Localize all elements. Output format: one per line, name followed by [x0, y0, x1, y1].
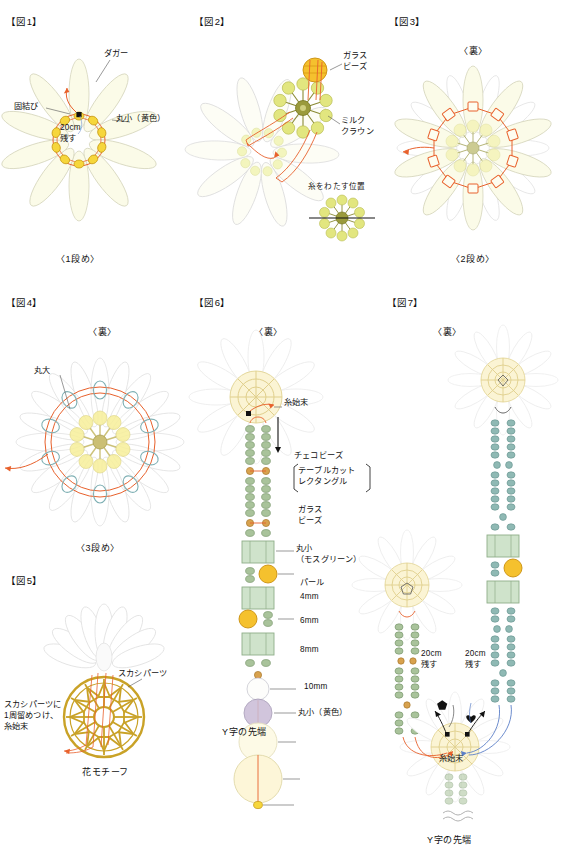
figure-7-caption: Y字の先端	[427, 833, 472, 846]
czech-bead-1	[242, 541, 274, 563]
flower-petals	[41, 604, 166, 673]
figure-5-caption: 花モチーフ	[82, 765, 129, 778]
thread-position-reference	[309, 195, 375, 241]
glass-bead-2	[239, 610, 257, 628]
flower-motif-bottom	[400, 692, 510, 802]
figure-7: 【図7】 〈裏〉	[385, 285, 565, 790]
figure-2-drawing	[190, 0, 385, 285]
annotation-leave-20cm-right: 20cm 残す	[465, 648, 486, 670]
glass-bead-1	[259, 565, 277, 583]
center-crown	[446, 120, 500, 176]
annotation-glass-bead: ガラス ビーズ	[343, 50, 368, 72]
annotation-round-small-yellow: 丸小（黄色）	[116, 113, 165, 124]
annotation-leave-20cm: 20cm 残す	[60, 122, 81, 144]
figure-1-drawing	[0, 0, 190, 285]
czech-bead-r1	[487, 535, 519, 557]
annotation-thread-pass-position: 糸をわたす位置	[308, 182, 365, 192]
figure-1-caption: 〈1段め〉	[56, 252, 100, 265]
annotation-glass-bead: ガラス ビーズ	[298, 504, 323, 526]
figure-7-drawing	[385, 285, 565, 790]
annotation-knot: 固結び	[14, 101, 39, 112]
figure-4: 【図4】 〈裏〉	[0, 285, 195, 567]
ghost-flower	[164, 54, 360, 251]
annotation-czech-bead-sub: テーブルカット レクタングル	[298, 465, 355, 487]
figure-6-caption: Y字の先端	[222, 725, 267, 738]
figure-6: 【図6】 〈裏〉	[190, 285, 385, 790]
glass-bead-r	[504, 559, 522, 577]
annotation-leave-20cm-left: 20cm 残す	[421, 648, 442, 670]
figure-4-caption: 〈3段め〉	[76, 541, 120, 554]
figure-3-drawing	[385, 0, 565, 285]
annotation-czech-bead: チェコビーズ	[294, 450, 343, 461]
figure-2: 【図2】	[190, 0, 385, 285]
annotation-pearl: パール	[300, 577, 325, 588]
openwork-part	[64, 677, 144, 757]
czech-bead-2	[242, 587, 274, 609]
annotation-attach-instruction: スカシパーツに 1周留めつけ、 糸始末	[4, 699, 61, 732]
flower-motif-top-right	[448, 325, 558, 435]
knot-marker	[76, 112, 81, 117]
czech-bead-3	[242, 633, 274, 655]
annotation-pearl-10mm: 10mm	[304, 681, 328, 692]
figure-4-drawing	[0, 285, 195, 567]
round-small-yellow-end	[254, 801, 263, 808]
annotation-pearl-4mm: 4mm	[300, 591, 319, 602]
annotation-pearl-8mm: 8mm	[300, 644, 319, 655]
figure-5: 【図5】	[0, 567, 195, 790]
figure-6-drawing	[190, 285, 385, 790]
annotation-pearl-6mm: 6mm	[300, 615, 319, 626]
annotation-openwork-part: スカシパーツ	[118, 668, 167, 679]
pearl-column	[234, 677, 282, 809]
figure-3-caption: 〈2段め〉	[451, 252, 495, 265]
annotation-round-large: 丸大	[34, 365, 50, 376]
thread-start-marker	[246, 411, 251, 416]
figure-3: 【図3】 〈裏〉	[385, 0, 565, 285]
right-strand	[487, 420, 522, 702]
annotation-thread-start-end: 糸始末	[284, 397, 309, 408]
dagger-leader	[96, 60, 110, 82]
annotation-round-small-moss: 丸小 （モスグリーン）	[296, 543, 362, 565]
figure-1: 【図1】	[0, 0, 190, 285]
center-crown	[70, 411, 130, 473]
pearl-4mm	[247, 678, 269, 700]
glass-bead	[303, 58, 327, 82]
cut-marks	[443, 811, 473, 821]
annotation-round-small-yellow: 丸小（黄色）	[298, 707, 347, 718]
annotation-milk-crown: ミルク クラウン	[341, 115, 374, 137]
annotation-dagger: ダガー	[104, 48, 129, 59]
annotation-thread-start-end: 糸始末	[439, 753, 464, 764]
czech-bead-r2	[487, 581, 519, 603]
